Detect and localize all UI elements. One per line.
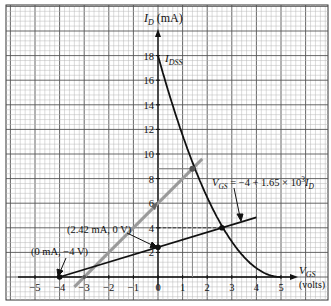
y-tick-label: 4 (149, 223, 155, 234)
y-tick-label: 10 (144, 149, 155, 160)
point-b-label: (2.42 mA, 0 V) (67, 224, 132, 236)
data-point (219, 225, 225, 231)
x-tick-label: −3 (79, 282, 90, 293)
x-tick-label: 4 (254, 282, 260, 293)
y-tick-label: 16 (144, 75, 155, 86)
x-tick-label: 1 (180, 282, 185, 293)
x-tick-label: −1 (128, 282, 139, 293)
gray-axis-crossing (82, 275, 86, 279)
point-a-label: (0 mA, −4 V) (31, 246, 89, 258)
x-tick-label: 0 (155, 282, 160, 293)
jfet-transfer-chart: −5−4−3−2−101234524681012141618 ID (mA) V… (0, 0, 331, 306)
data-point (189, 166, 195, 172)
x-tick-label: −5 (29, 282, 40, 293)
x-tick-label: 3 (229, 282, 234, 293)
x-tick-label: −2 (103, 282, 114, 293)
x-tick-label: 2 (205, 282, 210, 293)
y-tick-label: 14 (144, 100, 155, 111)
y-tick-label: 12 (144, 124, 155, 135)
y-tick-label: 8 (149, 174, 154, 185)
x-tick-label: −4 (54, 282, 66, 293)
x-axis-unit: (volts) (299, 279, 325, 291)
y-tick-label: 18 (144, 51, 155, 62)
x-tick-label: 5 (278, 282, 283, 293)
